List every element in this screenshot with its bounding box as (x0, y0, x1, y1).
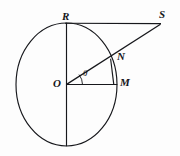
point-label-n: N (117, 51, 125, 62)
point-label-m: M (120, 77, 130, 88)
geometry-drawing-canvas (0, 0, 180, 156)
point-label-o: O (53, 78, 61, 89)
angle-label-theta: θ (83, 69, 87, 78)
secant-os-line (66, 24, 160, 84)
point-label-r: R (62, 11, 69, 22)
geometry-figure: O R M N S θ (0, 0, 180, 156)
point-label-s: S (159, 9, 165, 20)
